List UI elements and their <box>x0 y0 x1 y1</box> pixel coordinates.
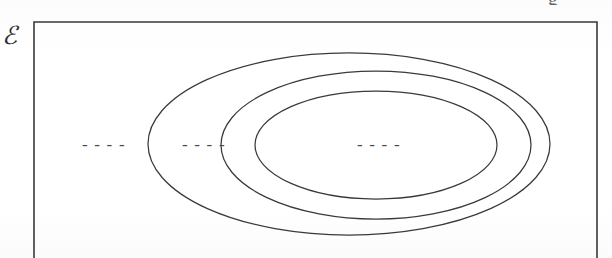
dash-group-between-outer-and-middle-text: - - - - <box>182 135 226 154</box>
figure-root: g ℰ - - - - - - - - - - - - <box>0 0 612 258</box>
dash-group-inner-text: - - - - <box>357 135 401 154</box>
dash-group-inner: - - - - <box>357 135 401 154</box>
dash-group-outside-ellipses-text: - - - - <box>82 135 126 154</box>
dash-group-outside-ellipses: - - - - <box>82 135 126 154</box>
euler-diagram-svg: - - - - - - - - - - - - <box>0 0 612 258</box>
dash-group-between-outer-and-middle: - - - - <box>182 135 226 154</box>
